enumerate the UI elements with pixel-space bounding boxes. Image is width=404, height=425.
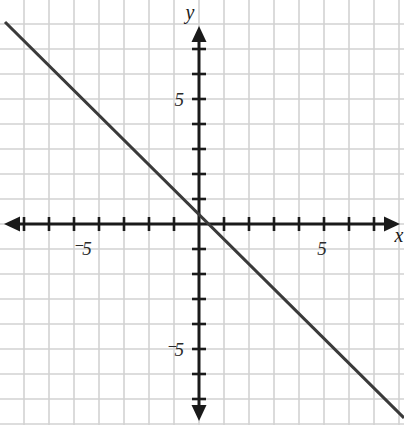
y-tick-label-neg-5: ⁻5 xyxy=(165,339,185,360)
graph-canvas: y x ⁻5 5 5 ⁻5 xyxy=(0,0,404,425)
graph-background xyxy=(0,0,404,425)
x-tick-label-neg-5: ⁻5 xyxy=(72,238,92,259)
x-tick-label-5: 5 xyxy=(317,238,327,259)
x-axis-variable-label: x xyxy=(394,224,404,246)
coordinate-plane-graph: y x ⁻5 5 5 ⁻5 xyxy=(0,0,404,425)
y-axis-variable-label: y xyxy=(184,1,195,24)
y-tick-label-5: 5 xyxy=(175,89,185,110)
